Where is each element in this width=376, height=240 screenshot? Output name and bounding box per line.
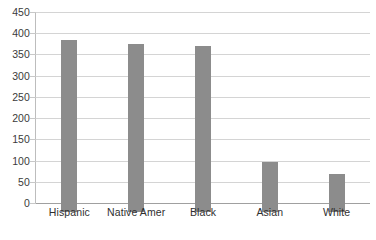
x-axis-tick-labels: Hispanic Native Amer Black Asian White [36, 0, 370, 240]
y-tick-250: 250 [12, 92, 30, 103]
y-tick-350: 350 [12, 49, 30, 60]
bar-chart: 450 400 350 300 250 200 150 100 50 0 His… [0, 0, 376, 240]
x-tick-label-black: Black [190, 207, 216, 218]
x-tick-label-white: White [323, 207, 350, 218]
x-tick-label-asian: Asian [256, 207, 283, 218]
y-tick-450: 450 [12, 7, 30, 18]
x-tick-label-native-amer: Native Amer [107, 207, 165, 218]
y-tick-400: 400 [12, 28, 30, 39]
y-axis-tick-labels: 450 400 350 300 250 200 150 100 50 0 [0, 0, 30, 240]
x-tick-label-hispanic: Hispanic [49, 207, 90, 218]
y-tick-200: 200 [12, 113, 30, 124]
y-tick-50: 50 [18, 177, 30, 188]
y-tick-300: 300 [12, 71, 30, 82]
y-tick-150: 150 [12, 134, 30, 145]
y-tick-100: 100 [12, 156, 30, 167]
